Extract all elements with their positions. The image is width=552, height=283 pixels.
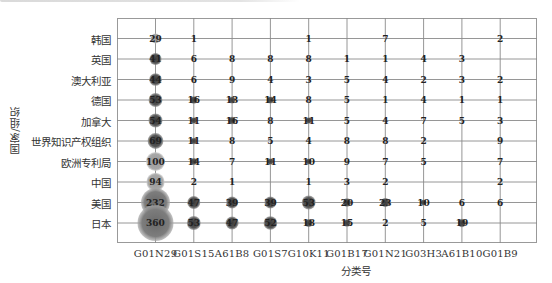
- bubble-value-label: 2: [382, 177, 388, 187]
- bubble-value-label: 2: [420, 75, 426, 85]
- bubble-value-label: 2: [497, 34, 503, 44]
- bubble-value-label: 6: [497, 198, 503, 208]
- bubble-value-label: 16: [188, 95, 201, 105]
- bubble-value-label: 7: [229, 157, 235, 167]
- y-tick-label: 德国: [91, 93, 111, 108]
- bubble-value-label: 2: [191, 177, 197, 187]
- bubble-value-label: 1: [382, 54, 388, 64]
- bubble-value-label: 53: [188, 218, 201, 228]
- y-tick-label: 加拿大: [81, 113, 111, 128]
- bubble-value-label: 360: [146, 218, 165, 228]
- bubble-value-label: 54: [149, 116, 162, 126]
- y-tick-label: 日本: [91, 216, 111, 231]
- bubble-value-label: 7: [382, 34, 388, 44]
- bubble-value-label: 94: [149, 177, 162, 187]
- bubble-value-label: 69: [149, 136, 162, 146]
- bubble-value-label: 1: [229, 177, 235, 187]
- bubble-value-label: 13: [226, 95, 239, 105]
- bubble-value-label: 1: [382, 95, 388, 105]
- bubble-value-label: 11: [188, 136, 201, 146]
- bubble-value-label: 3: [306, 75, 312, 85]
- bubble-value-label: 44: [149, 75, 162, 85]
- bubble-value-label: 1: [306, 34, 312, 44]
- bubble-value-label: 2: [497, 177, 503, 187]
- bubble-value-label: 1: [497, 95, 503, 105]
- y-tick-label: 澳大利亚: [71, 72, 111, 87]
- y-tick-label: 英国: [91, 52, 111, 67]
- y-tick-label: 美国: [91, 195, 111, 210]
- bubble-value-label: 100: [146, 157, 165, 167]
- bubble-value-label: 5: [267, 136, 273, 146]
- bubble-value-label: 7: [420, 116, 426, 126]
- bubble-value-label: 4: [420, 54, 426, 64]
- bubble-value-label: 1: [344, 54, 350, 64]
- bubble-value-label: 2: [497, 75, 503, 85]
- bubble-value-label: 4: [382, 116, 388, 126]
- bubble-value-label: 39: [226, 198, 239, 208]
- bubble-value-label: 5: [344, 116, 350, 126]
- bubble-value-label: 53: [149, 95, 162, 105]
- bubble-value-label: 10: [417, 198, 430, 208]
- bubble-value-label: 7: [382, 157, 388, 167]
- bubble-value-label: 11: [188, 116, 201, 126]
- x-tick-label: G01N21: [364, 248, 407, 259]
- x-tick-label: G10K11: [288, 248, 330, 259]
- x-tick-label: G03H3: [405, 248, 442, 259]
- bubble-value-label: 10: [302, 157, 315, 167]
- bubble-value-label: 47: [226, 218, 239, 228]
- bubble-value-label: 4: [382, 75, 388, 85]
- bubble-value-label: 5: [344, 95, 350, 105]
- bubble-value-label: 8: [306, 95, 312, 105]
- bubble-value-label: 8: [267, 116, 273, 126]
- x-tick-label: A61B8: [215, 248, 250, 259]
- bubble-value-label: 1: [306, 177, 312, 187]
- bubble-value-label: 53: [302, 198, 315, 208]
- y-tick-label: 欧洲专利局: [61, 154, 111, 169]
- y-tick-label: 中国: [91, 175, 111, 190]
- bubble-value-label: 5: [459, 116, 465, 126]
- bubble-value-label: 3: [459, 54, 465, 64]
- bubble-value-label: 11: [302, 116, 315, 126]
- bubble-value-label: 23: [379, 198, 392, 208]
- bubble-value-label: 39: [264, 198, 277, 208]
- bubble-value-label: 7: [497, 157, 503, 167]
- bubble-value-label: 19: [456, 218, 469, 228]
- bubble-value-label: 3: [497, 116, 503, 126]
- bubble-value-label: 3: [344, 177, 350, 187]
- y-axis-title: 国家/组织: [7, 106, 22, 154]
- bubble-value-label: 8: [229, 54, 235, 64]
- bubble-value-label: 2: [382, 218, 388, 228]
- bubble-value-label: 9: [497, 136, 503, 146]
- bubble-value-label: 11: [264, 157, 277, 167]
- bubble-value-label: 9: [344, 157, 350, 167]
- bubble-value-label: 4: [267, 75, 273, 85]
- x-tick-label: G01S7: [253, 248, 288, 259]
- x-tick-label: A61B10: [441, 248, 482, 259]
- bubble-value-label: 8: [382, 136, 388, 146]
- bubble-value-label: 2: [420, 136, 426, 146]
- bubble-value-label: 8: [267, 54, 273, 64]
- bubble-value-label: 6: [191, 75, 197, 85]
- y-tick-label: 韩国: [91, 31, 111, 46]
- x-tick-label: G01B9: [482, 248, 517, 259]
- bubble-value-label: 52: [264, 218, 277, 228]
- bubble-value-label: 14: [188, 157, 201, 167]
- bubble-value-label: 4: [420, 95, 426, 105]
- bubble-value-label: 8: [344, 136, 350, 146]
- bubble-value-label: 15: [341, 218, 354, 228]
- bubble-value-label: 18: [302, 218, 315, 228]
- bubble-value-label: 1: [191, 34, 197, 44]
- bubble-value-label: 6: [191, 54, 197, 64]
- bubble-value-label: 4: [306, 136, 312, 146]
- bubble-value-label: 8: [229, 136, 235, 146]
- bubble-value-label: 5: [344, 75, 350, 85]
- bubble-value-label: 16: [226, 116, 239, 126]
- bubble-value-label: 5: [420, 157, 426, 167]
- bubble-value-label: 29: [149, 34, 162, 44]
- bubble-value-label: 47: [188, 198, 201, 208]
- y-tick-label: 世界知识产权组织: [31, 134, 111, 149]
- bubble-value-label: 3: [459, 75, 465, 85]
- x-tick-label: G01S15: [173, 248, 215, 259]
- bubble-value-label: 5: [420, 218, 426, 228]
- bubble-value-label: 8: [306, 54, 312, 64]
